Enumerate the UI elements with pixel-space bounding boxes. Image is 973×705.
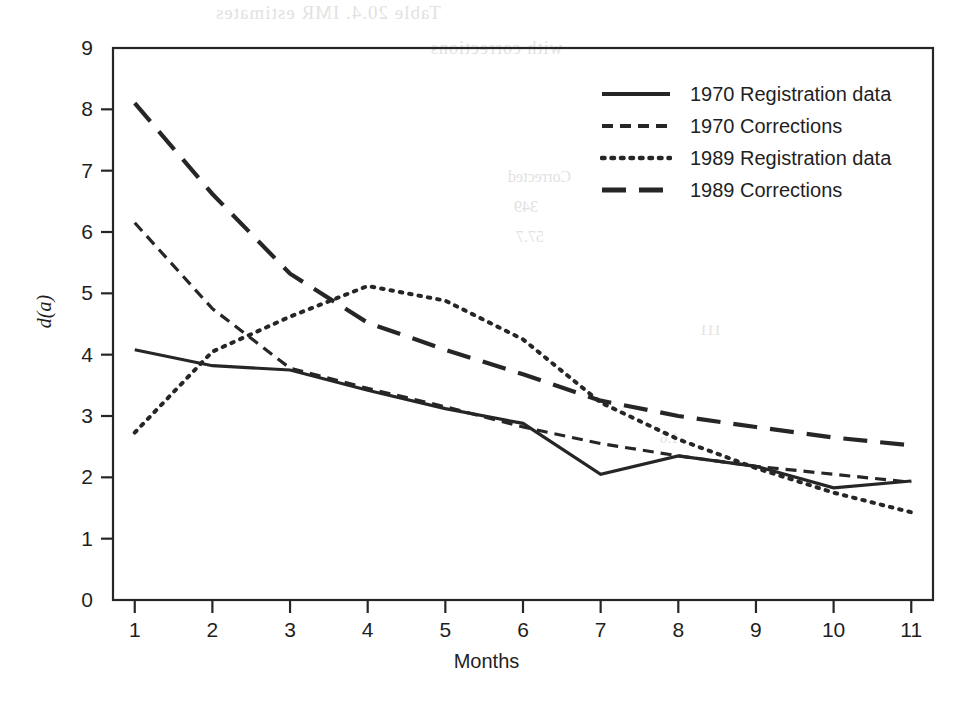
legend-label: 1989 Corrections [690,179,842,202]
y-tick-label: 0 [53,589,93,610]
y-tick-label: 6 [53,221,93,242]
chart-figure: Table 20.4. IMR estimates with correctio… [0,0,973,705]
y-tick-label: 9 [53,37,93,58]
legend-key-longdashed [600,181,672,199]
x-tick-label: 4 [338,619,398,640]
x-axis-label: Months [0,650,973,673]
legend-item: 1970 Corrections [600,110,940,142]
series-line-dashed [135,223,912,482]
y-axis-label: d(a) [33,282,56,342]
legend-item: 1989 Corrections [600,174,940,206]
y-tick-label: 8 [53,98,93,119]
y-tick-label: 5 [53,282,93,303]
y-tick-label: 2 [53,466,93,487]
x-tick-label: 3 [260,619,320,640]
legend-key-dashed [600,117,672,135]
legend-item: 1989 Registration data [600,142,940,174]
x-tick-label: 5 [415,619,475,640]
x-tick-label: 6 [493,619,553,640]
y-tick-label: 4 [53,344,93,365]
legend-label: 1989 Registration data [690,147,891,170]
chart-legend: 1970 Registration data1970 Corrections19… [600,78,940,206]
x-tick-label: 1 [105,619,165,640]
legend-key-dotted [600,149,672,167]
x-tick-label: 11 [881,619,941,640]
x-tick-label: 7 [571,619,631,640]
y-tick-label: 1 [53,528,93,549]
x-tick-label: 10 [804,619,864,640]
series-line-solid [135,350,912,488]
legend-label: 1970 Registration data [690,83,891,106]
legend-label: 1970 Corrections [690,115,842,138]
x-tick-label: 8 [648,619,708,640]
x-tick-label: 2 [182,619,242,640]
legend-key-solid [600,85,672,103]
y-tick-label: 3 [53,405,93,426]
x-tick-label: 9 [726,619,786,640]
y-tick-label: 7 [53,160,93,181]
legend-item: 1970 Registration data [600,78,940,110]
